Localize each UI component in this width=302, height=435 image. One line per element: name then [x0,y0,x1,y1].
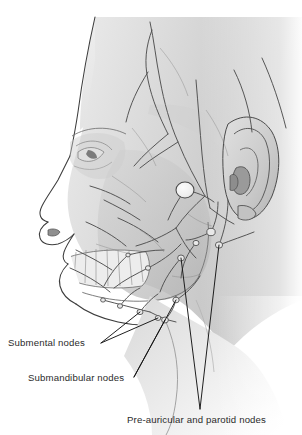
figure-canvas: Submental nodes Submandibular nodes Pre-… [0,0,302,435]
lymph-node-submental [117,304,122,309]
lymph-node-parotid [193,240,199,245]
label-submandibular-nodes: Submandibular nodes [28,373,124,383]
lymph-node-submental [101,298,106,302]
lymph-node-parotid [207,228,215,235]
anatomical-illustration [0,0,302,435]
label-submental-nodes: Submental nodes [8,338,85,348]
lymph-node-facial [126,253,130,257]
lymph-node-parotid-major [176,182,194,198]
lymph-node-facial [145,266,150,271]
label-preauricular-and-parotid-nodes: Pre-auricular and parotid nodes [127,415,266,425]
